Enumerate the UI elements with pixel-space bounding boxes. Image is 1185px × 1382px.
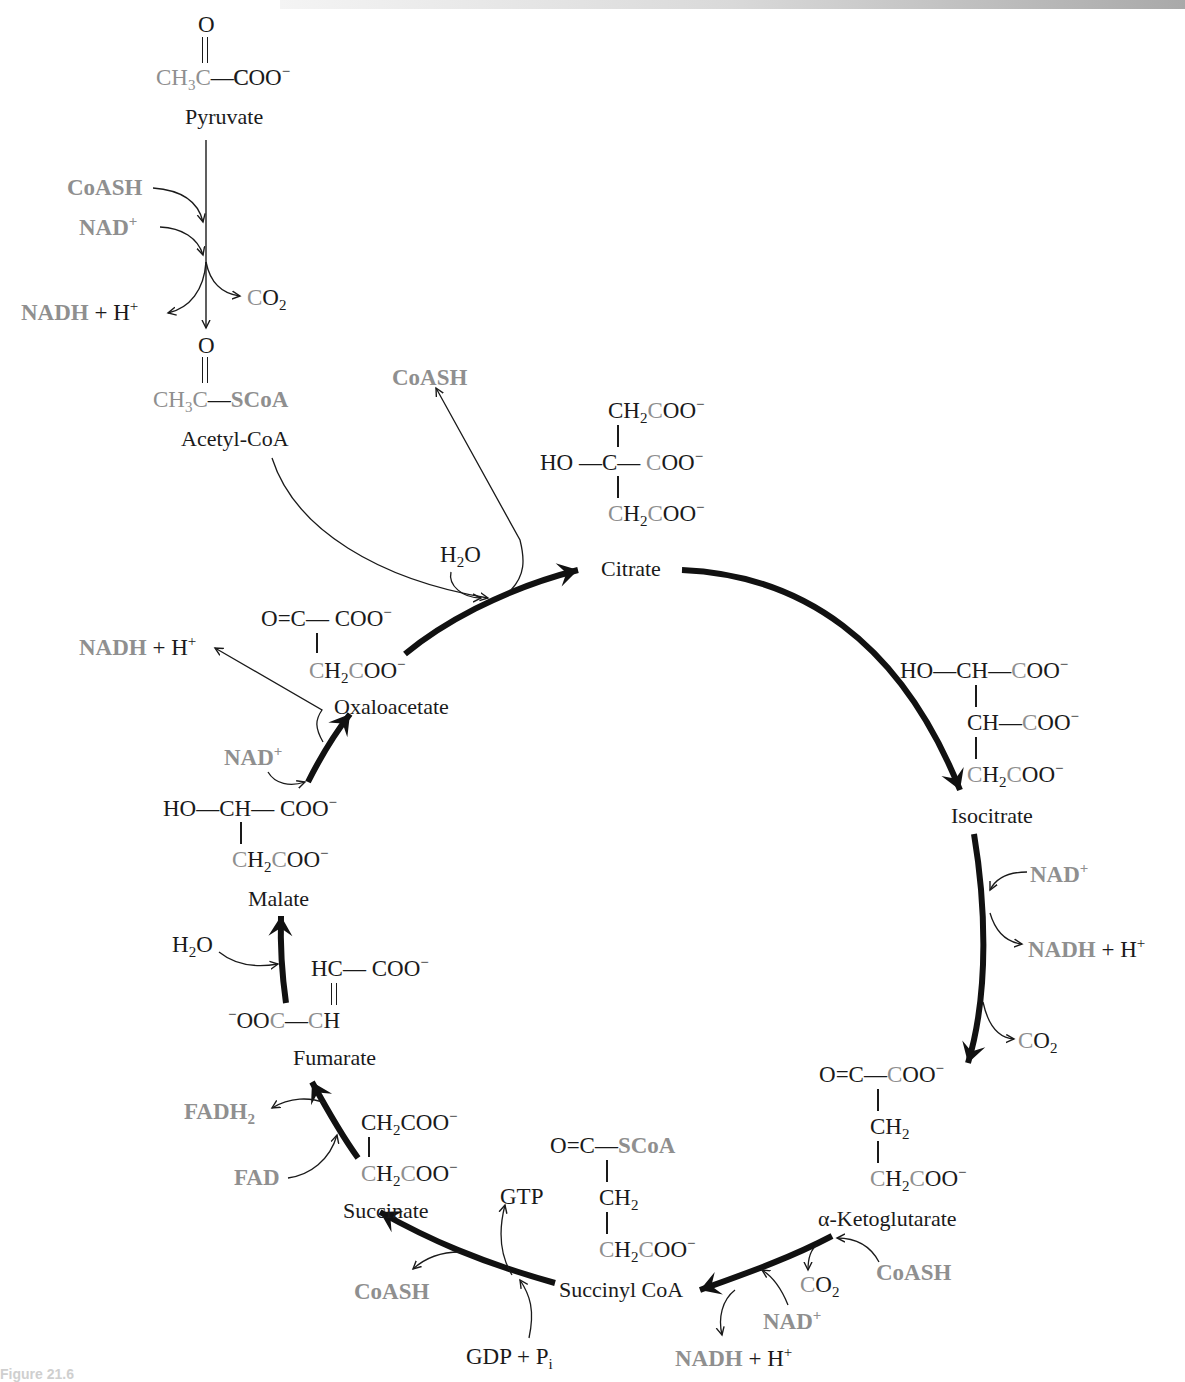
- acetyl-coa-label: Acetyl-CoA: [181, 428, 289, 450]
- gtp-output: GTP: [500, 1185, 543, 1208]
- pyruvate-dehydrogenase-arrow: [153, 140, 240, 328]
- succinate-row-2: CH2COO−: [361, 1162, 458, 1185]
- citrate-label: Citrate: [601, 558, 661, 580]
- nad-input-pdh: NAD+: [79, 216, 137, 239]
- single-bond: [606, 1160, 608, 1182]
- akg-row-2: CH2: [870, 1115, 909, 1138]
- isocitrate-row-3: CH2COO−: [967, 763, 1064, 786]
- gdp-pi-input: GDP + Pi: [466, 1345, 553, 1368]
- single-bond: [606, 1212, 608, 1234]
- nad-input-malate-dh: NAD+: [224, 746, 282, 769]
- figure-caption-fragment: Figure 21.6: [0, 1366, 74, 1382]
- h2o-input-citrate-synthase: H2O: [440, 543, 481, 566]
- nad-input-isocitrate-dh: NAD+: [1030, 863, 1088, 886]
- single-bond: [316, 633, 318, 653]
- nadh-output-isocitrate-dh: NADH + H+: [1028, 938, 1145, 961]
- isocitrate-row-2: CH—COO−: [967, 711, 1079, 734]
- akg-row-1: O=C—COO−: [819, 1063, 944, 1086]
- succinyl-coa-row-2: CH2: [599, 1186, 638, 1209]
- single-bond: [368, 1137, 370, 1157]
- pyruvate-label: Pyruvate: [185, 106, 263, 128]
- coash-input-akg-dh: CoASH: [876, 1261, 951, 1284]
- oxaloacetate-row-2: CH2COO−: [309, 659, 406, 682]
- carbonyl-oxygen: O: [198, 13, 215, 36]
- coash-output-citrate-synthase: CoASH: [392, 366, 467, 389]
- citrate-row-3: CH2COO−: [608, 502, 705, 525]
- alpha-ketoglutarate-label: α-Ketoglutarate: [818, 1208, 957, 1230]
- single-bond: [617, 425, 619, 447]
- succinyl-coa-row-1: O=C—SCoA: [550, 1134, 675, 1157]
- malate-row-1: HO—CH— COO−: [163, 797, 337, 820]
- single-bond: [975, 737, 977, 759]
- pyruvate-formula: CH3C—CCOO−: [156, 66, 290, 89]
- isocitrate-label: Isocitrate: [951, 805, 1033, 827]
- succinate-row-1: CH2COO−: [361, 1111, 457, 1134]
- isocitrate-row-1: HO—CH—COO−: [900, 659, 1068, 682]
- coash-input-pdh: CoASH: [67, 176, 142, 199]
- akg-row-3: CH2COO−: [870, 1167, 967, 1190]
- double-bond: [202, 357, 208, 383]
- succinyl-coa-label: Succinyl CoA: [559, 1279, 683, 1301]
- coash-output-succinyl-synthetase: CoASH: [354, 1280, 429, 1303]
- fadh2-output: FADH2: [184, 1100, 255, 1123]
- single-bond: [617, 476, 619, 498]
- succinate-label: Succinate: [343, 1200, 429, 1222]
- single-bond: [877, 1141, 879, 1163]
- single-bond: [877, 1089, 879, 1111]
- nadh-output-malate-dh: NADH + H+: [79, 636, 196, 659]
- citrate-row-2: HO —C— COO−: [540, 451, 703, 474]
- succinyl-coa-row-3: CH2COO−: [599, 1238, 696, 1261]
- co2-output-akg-dh: CO2: [800, 1273, 839, 1296]
- co2-output-isocitrate-dh: CO2: [1018, 1029, 1057, 1052]
- fumarate-label: Fumarate: [293, 1047, 376, 1069]
- co2-output-pdh: CO2: [247, 286, 286, 309]
- nadh-output-pdh: NADH + H+: [21, 301, 138, 324]
- single-bond: [975, 685, 977, 707]
- malate-row-2: CH2COO−: [232, 848, 329, 871]
- h2o-input-fumarase: H2O: [172, 933, 213, 956]
- oxaloacetate-label: Oxaloacetate: [334, 696, 449, 718]
- citrate-row-1: CH2COO−: [608, 399, 705, 422]
- double-bond: [202, 37, 208, 63]
- carbonyl-oxygen: O: [198, 334, 215, 357]
- oxaloacetate-row-1: O=C— COO−: [261, 607, 392, 630]
- fad-input: FAD: [234, 1166, 280, 1189]
- nad-input-akg-dh: NAD+: [763, 1310, 821, 1333]
- fumarate-row-1: HC— COO−: [311, 957, 429, 980]
- malate-label: Malate: [248, 888, 309, 910]
- acetyl-coa-formula: CH3C—SCoA: [153, 388, 288, 411]
- nadh-output-akg-dh: NADH + H+: [675, 1347, 792, 1370]
- double-bond: [331, 983, 337, 1005]
- single-bond: [240, 822, 242, 844]
- fumarate-row-2: −OOC—CH: [228, 1009, 340, 1032]
